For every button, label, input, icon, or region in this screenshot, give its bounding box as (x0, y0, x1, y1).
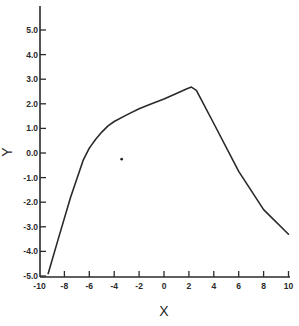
x-tick-label: -8 (61, 281, 69, 291)
y-tick-label: -5.0 (23, 271, 38, 281)
y-tick-label: 2.0 (26, 99, 38, 109)
series-line (48, 87, 288, 273)
y-tick-label: 1.0 (26, 123, 38, 133)
x-tick-label: -4 (110, 281, 118, 291)
y-ticks: 5.04.03.02.01.00.0-1.0-2.0-3.0-4.0-5.0 (23, 25, 46, 281)
y-tick-label: 0.0 (26, 148, 38, 158)
x-tick-label: 10 (284, 281, 294, 291)
y-tick-label: 3.0 (26, 74, 38, 84)
line-chart: 5.04.03.02.01.00.0-1.0-2.0-3.0-4.0-5.0 -… (0, 0, 299, 326)
x-tick-label: 8 (261, 281, 266, 291)
axes (40, 6, 290, 277)
x-tick-label: -2 (135, 281, 143, 291)
x-tick-label: 2 (187, 281, 192, 291)
annotations (120, 158, 123, 161)
y-tick-label: -2.0 (23, 197, 38, 207)
y-axis-title: Y (0, 147, 15, 157)
data-point-marker (120, 158, 123, 161)
y-tick-label: -1.0 (23, 173, 38, 183)
x-tick-label: 0 (162, 281, 167, 291)
x-tick-label: -6 (86, 281, 94, 291)
x-ticks: -10-8-6-4-20246810 (33, 271, 293, 291)
x-tick-label: -10 (33, 281, 46, 291)
x-axis-title: X (159, 303, 169, 319)
y-tick-label: 4.0 (26, 50, 38, 60)
y-tick-label: 5.0 (26, 25, 38, 35)
data-series (48, 87, 288, 273)
y-tick-label: -4.0 (23, 246, 38, 256)
x-tick-label: 4 (211, 281, 216, 291)
x-tick-label: 6 (236, 281, 241, 291)
y-tick-label: -3.0 (23, 222, 38, 232)
